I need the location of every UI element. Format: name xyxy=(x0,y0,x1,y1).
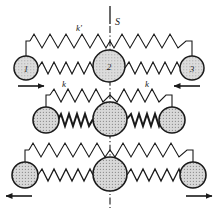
mode-2-inner-spring-left-coil xyxy=(58,114,93,126)
mode-3-group xyxy=(6,143,212,196)
mode-2-mass-2 xyxy=(93,102,127,136)
mode-1-mass-1-label: 1 xyxy=(24,64,29,74)
mode-2-outer-spring-left-riser xyxy=(46,95,50,108)
mode-2-outer-spring-right-riser xyxy=(168,95,172,108)
mode-3-inner-spring-right-coil xyxy=(127,169,181,181)
mode-3-mass-1-body xyxy=(12,162,38,188)
mode-1-outer-spring-label: k' xyxy=(76,23,83,33)
mode-1-inner-spring-right-coil xyxy=(125,62,180,74)
mode-1-mass-2-label: 2 xyxy=(107,62,112,72)
mode-3-outer-spring-right-riser xyxy=(189,150,193,163)
figure-canvas: S k' k k 1 xyxy=(0,0,219,215)
mode-3-inner-spring-left xyxy=(38,169,93,181)
symmetry-axis-label: S xyxy=(115,16,120,27)
mode-1-mass-2: 2 xyxy=(93,50,125,82)
mode-1-inner-spring-left: k xyxy=(38,62,93,89)
mode-3-outer-spring-coil xyxy=(29,143,189,157)
mode-2-mass-2-body xyxy=(93,102,127,136)
mode-3-mass-2 xyxy=(93,157,127,191)
mode-3-outer-spring-left-riser xyxy=(25,150,29,163)
mode-1-inner-spring-right: k xyxy=(125,62,180,89)
mode-1-inner-spring-right-label: k xyxy=(145,79,150,89)
mode-3-mass-3 xyxy=(180,162,206,188)
mode-2-mass-1 xyxy=(33,107,59,133)
mode-3-inner-spring-left-coil xyxy=(38,169,93,181)
mode-2-inner-spring-right-coil xyxy=(127,114,161,126)
mode-1-mass-3-label: 3 xyxy=(189,64,195,74)
mode-1-mass-1: 1 xyxy=(14,56,38,80)
mode-3-mass-1 xyxy=(12,162,38,188)
physics-figure: S k' k k 1 xyxy=(0,0,219,215)
mode-2-group xyxy=(33,89,185,136)
mode-1-group: k' k k 1 2 3 xyxy=(14,23,204,89)
mode-3-inner-spring-right xyxy=(127,169,181,181)
mode-2-mass-1-body xyxy=(33,107,59,133)
mode-2-inner-spring-right xyxy=(127,114,161,126)
mode-2-outer-spring-coil xyxy=(50,89,168,102)
mode-3-mass-2-body xyxy=(93,157,127,191)
mode-1-outer-spring-right-riser xyxy=(190,41,192,56)
mode-2-mass-3 xyxy=(159,107,185,133)
mode-3-mass-3-body xyxy=(180,162,206,188)
mode-2-mass-3-body xyxy=(159,107,185,133)
mode-1-mass-3: 3 xyxy=(180,56,204,80)
mode-1-inner-spring-left-coil xyxy=(38,62,93,74)
mode-1-outer-spring-left-riser xyxy=(26,41,30,56)
mode-2-inner-spring-left xyxy=(58,114,93,126)
mode-1-inner-spring-left-label: k xyxy=(62,79,67,89)
